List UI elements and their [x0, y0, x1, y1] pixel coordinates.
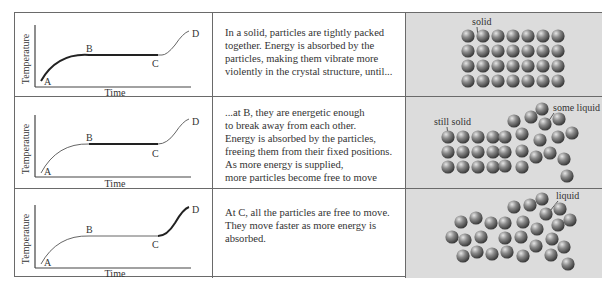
particle	[521, 74, 534, 87]
particle	[553, 202, 566, 215]
particle	[529, 150, 542, 163]
particle	[551, 29, 564, 42]
description-text: ...at B, they are energetic enough to br…	[225, 106, 399, 184]
particle	[529, 239, 542, 252]
particle	[498, 216, 511, 229]
particle	[551, 130, 564, 143]
particle	[515, 160, 528, 173]
particle	[536, 59, 549, 72]
particle	[506, 59, 519, 72]
table-row-melting: A B C D Time Temperature ...at B, they a…	[15, 97, 601, 189]
point-d-label: D	[192, 116, 199, 127]
particle	[456, 130, 469, 143]
particle	[521, 59, 534, 72]
particle	[458, 233, 471, 246]
label-some-liquid: some liquid	[553, 102, 600, 113]
particle	[506, 74, 519, 87]
particle	[491, 59, 504, 72]
particle	[523, 198, 536, 211]
particle	[484, 216, 497, 229]
particle	[476, 44, 489, 57]
particle	[521, 44, 534, 57]
particle	[486, 160, 499, 173]
point-b-label: B	[86, 43, 93, 54]
particle	[471, 160, 484, 173]
point-a-label: A	[44, 166, 52, 177]
particle	[456, 249, 469, 262]
particle	[545, 232, 558, 245]
point-a-label: A	[44, 76, 52, 87]
particle	[498, 130, 511, 143]
particle	[551, 218, 564, 231]
particle	[533, 133, 546, 146]
particle	[530, 222, 543, 235]
graph-cell: A B C D Time Temperature	[15, 97, 213, 188]
particle	[491, 29, 504, 42]
particle	[498, 159, 511, 172]
y-axis-label: Temperature	[20, 213, 31, 264]
label-solid: solid	[472, 16, 491, 27]
point-d-label: D	[192, 28, 199, 39]
particle	[535, 102, 548, 115]
particle	[471, 145, 484, 158]
particle	[506, 29, 519, 42]
particle	[476, 59, 489, 72]
particle	[506, 44, 519, 57]
particle	[456, 160, 469, 173]
particle	[491, 44, 504, 57]
particle	[544, 248, 557, 261]
graph-cell: A B C D Time Temperature	[15, 13, 213, 96]
particle	[454, 215, 467, 228]
particle	[552, 112, 565, 125]
particle	[521, 29, 534, 42]
particle	[461, 74, 474, 87]
description-cell: In a solid, particles are tightly packed…	[213, 13, 406, 96]
particle	[524, 110, 537, 123]
description-text: In a solid, particles are tightly packed…	[225, 26, 399, 78]
particle	[551, 59, 564, 72]
particle	[461, 44, 474, 57]
particle	[515, 127, 528, 140]
particle	[445, 230, 458, 243]
particle	[507, 200, 520, 213]
particle	[498, 231, 511, 244]
particle	[565, 126, 578, 139]
particle	[563, 213, 576, 226]
point-c-label: C	[152, 148, 159, 159]
particle	[491, 74, 504, 87]
point-b-label: B	[86, 224, 93, 235]
heating-curve-graph: A B C D Time Temperature	[15, 189, 213, 278]
particle	[514, 230, 527, 243]
particle	[476, 29, 489, 42]
heating-curve-graph: A B C D Time Temperature	[15, 13, 213, 97]
particle	[441, 145, 454, 158]
particle	[516, 249, 529, 262]
label-still-solid: still solid	[434, 116, 471, 127]
particle	[500, 245, 513, 258]
particle	[470, 245, 483, 258]
x-axis-label: Time	[105, 268, 126, 278]
description-text: At C, all the particles are free to move…	[225, 206, 399, 245]
point-c-label: C	[152, 58, 159, 69]
particle	[476, 74, 489, 87]
particle	[516, 215, 529, 228]
particle	[543, 146, 556, 159]
heating-curve-graph: A B C D Time Temperature	[15, 97, 213, 189]
particle	[507, 114, 520, 127]
table-row-solid: A B C D Time Temperature In a solid, par…	[15, 13, 601, 97]
label-liquid: liquid	[556, 190, 579, 201]
graph-cell: A B C D Time Temperature	[15, 189, 213, 278]
particle	[535, 192, 548, 205]
particle	[486, 145, 499, 158]
particle	[441, 160, 454, 173]
particle-illustration-solid: solid	[406, 13, 602, 96]
particle	[538, 117, 551, 130]
point-c-label: C	[152, 239, 159, 250]
particle	[557, 152, 570, 165]
particle	[469, 211, 482, 224]
particle	[539, 207, 552, 220]
particle	[536, 74, 549, 87]
particle-illustration-liquid: liquid	[406, 189, 602, 278]
y-axis-label: Temperature	[20, 33, 31, 84]
particle	[515, 144, 528, 157]
